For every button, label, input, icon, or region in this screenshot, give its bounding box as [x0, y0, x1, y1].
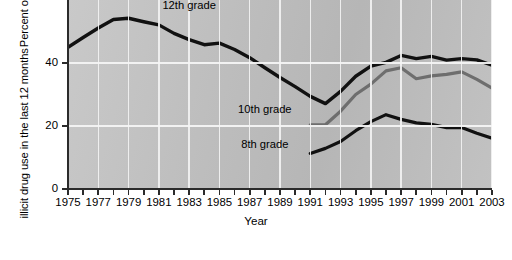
gridline-vertical: [400, 0, 401, 189]
x-tick: [203, 190, 205, 195]
x-tick: [370, 190, 372, 195]
x-tick: [309, 190, 311, 195]
y-tick-label: 20: [24, 119, 58, 131]
x-tick: [143, 190, 145, 195]
x-tick: [400, 190, 402, 195]
x-tick: [234, 190, 236, 195]
x-tick: [415, 190, 417, 195]
x-tick: [97, 190, 99, 195]
gridline-vertical: [128, 0, 129, 189]
y-tick: [62, 62, 67, 64]
y-tick-label: 40: [24, 56, 58, 68]
gridline-vertical: [188, 0, 189, 189]
x-tick: [461, 190, 463, 195]
gridline-vertical: [370, 0, 371, 189]
x-tick: [476, 190, 478, 195]
x-tick: [355, 190, 357, 195]
x-tick: [219, 190, 221, 195]
gridline-vertical: [249, 0, 250, 189]
y-tick-label: 0: [24, 182, 58, 194]
x-tick: [188, 190, 190, 195]
x-tick: [431, 190, 433, 195]
gridline-vertical: [279, 0, 280, 189]
x-tick: [128, 190, 130, 195]
gridline-vertical: [310, 0, 311, 189]
x-tick: [446, 190, 448, 195]
x-tick: [249, 190, 251, 195]
gridline-vertical: [431, 0, 432, 189]
x-tick: [325, 190, 327, 195]
series-label-12th-grade: 12th grade: [162, 0, 216, 11]
chart-root: illicit drug use in the last 12 months P…: [0, 0, 512, 260]
gridline-vertical: [98, 0, 99, 189]
gridline-vertical: [340, 0, 341, 189]
series-label-8th-grade: 8th grade: [241, 138, 288, 150]
x-tick: [491, 190, 493, 195]
x-tick: [294, 190, 296, 195]
x-axis-title: Year: [0, 214, 512, 227]
y-tick: [62, 125, 67, 127]
x-tick: [67, 190, 69, 195]
x-tick: [173, 190, 175, 195]
gridline-horizontal: [68, 62, 492, 63]
gridline-vertical: [491, 0, 492, 189]
x-tick-label: 2003: [470, 196, 512, 208]
series-label-10th-grade: 10th grade: [238, 103, 292, 115]
x-tick: [340, 190, 342, 195]
y-axis-title-line-1: Percent of students who reported: [18, 0, 30, 47]
gridline-vertical: [158, 0, 159, 189]
gridline-horizontal: [68, 125, 492, 126]
gridline-vertical: [219, 0, 220, 189]
x-tick: [158, 190, 160, 195]
plot-area: [68, 0, 492, 189]
x-tick: [82, 190, 84, 195]
y-axis-line: [67, 0, 69, 190]
x-tick: [279, 190, 281, 195]
x-tick: [385, 190, 387, 195]
x-tick: [264, 190, 266, 195]
x-tick: [113, 190, 115, 195]
gridline-vertical: [461, 0, 462, 189]
